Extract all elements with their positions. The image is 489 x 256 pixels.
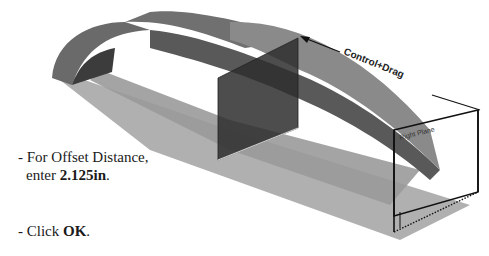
instruction-suffix: . [106, 167, 110, 183]
instruction-offset-distance: - For Offset Distance, enter 2.125in. [18, 148, 149, 184]
offset-value: 2.125in [60, 167, 106, 183]
ok-label: OK [63, 223, 86, 239]
instruction-line-2: enter 2.125in. [18, 166, 149, 184]
instruction-suffix: . [86, 223, 90, 239]
callout-line-2 [432, 95, 480, 110]
instruction-line-1: - For Offset Distance, [18, 148, 149, 166]
instruction-text: enter [26, 167, 60, 183]
instruction-text: - Click [18, 223, 63, 239]
instruction-click-ok: - Click OK. [18, 222, 90, 240]
model-viewport[interactable]: Right Plane Control+Drag [0, 0, 489, 256]
